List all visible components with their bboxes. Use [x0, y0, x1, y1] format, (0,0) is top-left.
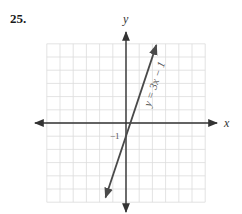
y-axis-label: y — [122, 12, 129, 26]
y-intercept-label: −1 — [110, 131, 120, 141]
equation-label: y = 3x − 1 — [141, 60, 167, 109]
x-axis-label: x — [223, 116, 230, 130]
coordinate-plane: x y −1 y = 3x − 1 — [0, 0, 242, 214]
